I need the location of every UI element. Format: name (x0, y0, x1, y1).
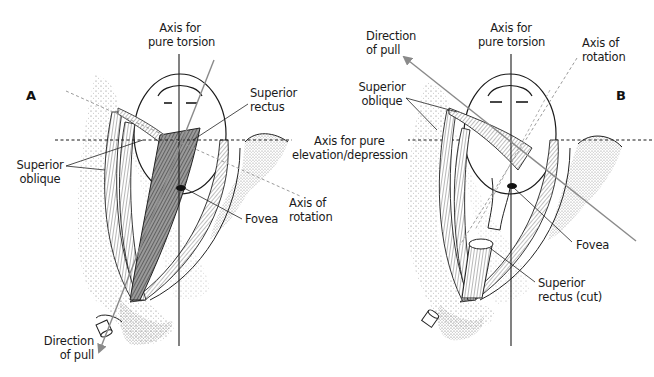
label-line: pure torsion (478, 35, 544, 49)
label-line: rotation (289, 210, 333, 224)
label-line: pure torsion (148, 35, 212, 49)
label-superior-rectus-a: Superior rectus (250, 86, 297, 114)
label-axis-of-rotation-b: Axis of rotation (582, 36, 626, 64)
label-line: Direction (30, 334, 94, 348)
label-direction-of-pull-a: Direction of pull (30, 334, 94, 362)
label-axis-elevation-depression: Axis for pure elevation/depression (292, 134, 408, 162)
label-line: Axis of (289, 196, 333, 210)
label-line: Axis for (478, 21, 544, 35)
label-direction-of-pull-b: Direction of pull (366, 29, 416, 57)
label-line: rectus (250, 100, 297, 114)
label-line: Axis for (148, 21, 212, 35)
label-line: elevation/depression (292, 148, 408, 162)
label-superior-rectus-cut: Superior rectus (cut) (538, 276, 602, 304)
label-fovea-b: Fovea (576, 238, 609, 252)
label-superior-oblique-b: Superior oblique (356, 80, 408, 108)
label-line: Superior (538, 276, 602, 290)
eye-muscle-diagram (0, 0, 654, 377)
panel-label-a: A (26, 88, 36, 103)
label-line: rotation (582, 50, 626, 64)
label-line: oblique (10, 172, 70, 186)
label-line: rectus (cut) (538, 290, 602, 304)
label-line: Axis for pure (292, 134, 408, 148)
label-line: oblique (356, 94, 408, 108)
label-line: Superior (250, 86, 297, 100)
label-line: Axis of (582, 36, 626, 50)
label-axis-pure-torsion-b: Axis for pure torsion (478, 21, 544, 49)
label-fovea-a: Fovea (245, 212, 278, 226)
label-line: Superior (356, 80, 408, 94)
label-axis-of-rotation-a: Axis of rotation (289, 196, 333, 224)
label-axis-pure-torsion-a: Axis for pure torsion (148, 21, 212, 49)
label-line: of pull (366, 43, 416, 57)
label-line: Direction (366, 29, 416, 43)
label-superior-oblique-a: Superior oblique (10, 158, 70, 186)
label-line: Superior (10, 158, 70, 172)
label-line: of pull (30, 348, 94, 362)
panel-label-b: B (616, 88, 626, 103)
